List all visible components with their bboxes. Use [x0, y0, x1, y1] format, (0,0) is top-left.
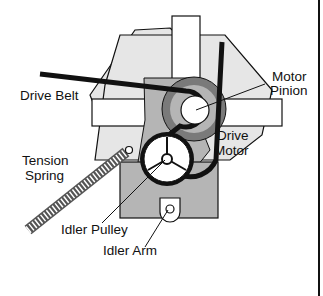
label-drive-motor-2: Motor	[214, 143, 249, 158]
label-drive-motor-1: Drive	[217, 128, 249, 143]
motor-pinion	[181, 96, 209, 124]
label-idler-pulley: Idler Pulley	[61, 222, 128, 237]
top-shaft-bracket	[172, 16, 200, 86]
label-tension-spring-2: Spring	[25, 168, 64, 183]
drive-mechanism-diagram	[0, 0, 323, 296]
label-motor-pinion-1: Motor	[272, 69, 307, 84]
label-motor-pinion-2: Pinion	[270, 83, 308, 98]
label-idler-arm: Idler Arm	[103, 243, 157, 258]
spring-anchor	[126, 147, 133, 154]
label-drive-belt: Drive Belt	[20, 88, 79, 103]
label-tension-spring-1: Tension	[22, 153, 69, 168]
